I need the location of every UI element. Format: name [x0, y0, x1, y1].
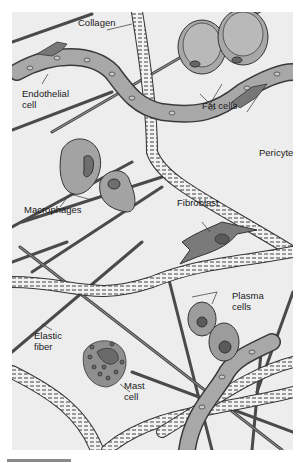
- label-elastic-fiber: Elastic fiber: [34, 330, 62, 352]
- label-mast-cell: Mast cell: [124, 380, 145, 402]
- tissue-diagram-panel: Collagen Endothelial cell Fat cells Peri…: [12, 12, 293, 450]
- label-endothelial-cell: Endothelial cell: [22, 88, 69, 110]
- mast-cell: [83, 341, 126, 387]
- label-fat-cells: Fat cells: [202, 100, 237, 111]
- label-macrophages: Macrophages: [24, 204, 82, 215]
- tissue-illustration: [12, 12, 293, 450]
- label-plasma-cells: Plasma cells: [232, 290, 264, 312]
- fat-cells: [178, 12, 268, 74]
- scale-bar: [7, 459, 71, 462]
- label-collagen: Collagen: [78, 17, 116, 28]
- label-pericyte: Pericyte: [259, 147, 293, 158]
- label-fibroblast: Fibroblast: [177, 197, 219, 208]
- macrophages: [60, 139, 135, 212]
